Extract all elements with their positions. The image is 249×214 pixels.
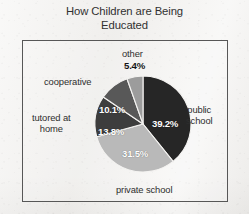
chart-title: How Children are Being Educated [0,5,249,32]
pie-value-label-other: 5.4% [124,60,145,71]
pie-category-label-cooperative: cooperative [44,76,91,87]
pie-category-label-line: public [186,104,213,115]
pie-category-label-other: other [122,48,143,59]
pie-category-label-tutored-at-home: tutored athome [32,112,71,134]
pie-value-label-tutored-at-home: 13.8% [98,126,124,137]
pie-value-label-private-school: 31.5% [122,148,148,159]
pie-category-label-line: tutored at [32,112,71,123]
pie-category-label-public-school: publicschool [186,104,213,126]
pie-category-label-private-school: private school [116,184,172,195]
chart-title-line-1: How Children are Being [66,5,183,17]
pie-value-label-cooperative: 10.1% [99,104,125,115]
pie-category-label-line: school [186,115,213,126]
scanned-page: How Children are Being Educated 39.2%31.… [0,0,249,214]
chart-title-line-2: Educated [0,19,249,33]
pie-value-label-public-school: 39.2% [152,118,178,129]
pie-category-label-line: home [32,123,71,134]
